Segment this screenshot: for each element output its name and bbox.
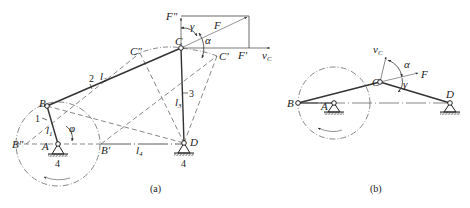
- label-f-prime: F': [237, 49, 248, 61]
- label-f: F: [213, 19, 221, 31]
- mechanism-diagram: B A C D B" B' C" C' 1 2 3 4 4 l1 l2 l3 l…: [0, 0, 470, 208]
- label-b-double-prime: B": [12, 138, 24, 150]
- label-l4: l4: [136, 144, 143, 158]
- label-link-3: 3: [189, 88, 194, 99]
- rocker-link-3: [181, 48, 184, 143]
- label-b: B: [39, 97, 46, 109]
- alpha-arc-b-icon: [388, 60, 402, 77]
- figure-b: B A C D α γ F vC (b): [287, 43, 460, 195]
- label-vc: vC: [262, 49, 272, 63]
- rocker-link-b: [380, 82, 450, 103]
- diagonal-bd: [47, 106, 184, 143]
- label-l3: l3: [175, 96, 182, 110]
- label-c-b: C: [372, 76, 380, 88]
- label-a: A: [41, 140, 49, 152]
- label-d-b: D: [445, 88, 454, 100]
- rotation-arrow-icon: [44, 177, 70, 180]
- rotation-arrow-b-icon: [318, 128, 342, 132]
- label-alpha-b: α: [404, 58, 410, 70]
- label-gamma-b: γ: [403, 78, 408, 90]
- force-f-arrow-b: [380, 73, 418, 82]
- label-b-prime: B': [101, 144, 111, 156]
- velocity-vc-arrow-b: [380, 57, 386, 82]
- joint-b-b: [296, 101, 301, 106]
- label-l2: l2: [100, 70, 107, 84]
- label-ground-d: 4: [181, 158, 186, 169]
- coupler-link-b: [298, 82, 380, 103]
- label-c-double-prime: C": [130, 45, 142, 57]
- label-phi: φ: [69, 122, 75, 134]
- label-c-prime: C': [219, 50, 229, 62]
- label-link-2: 2: [89, 73, 94, 84]
- alpha-arc-icon: [199, 33, 204, 58]
- caption-a: (a): [150, 183, 161, 195]
- label-d: D: [189, 136, 198, 148]
- label-ground-a: 4: [55, 158, 60, 169]
- figure-a: B A C D B" B' C" C' 1 2 3 4 4 l1 l2 l3 l…: [12, 10, 272, 195]
- coupler-link-2: [47, 48, 181, 106]
- label-alpha: α: [205, 34, 211, 46]
- label-vc-b: vC: [373, 43, 383, 57]
- label-a-b: A: [320, 100, 328, 112]
- extreme-link-b1c1: [101, 56, 217, 144]
- label-l1: l1: [46, 124, 53, 138]
- label-f-b: F: [420, 68, 428, 80]
- extreme-link-c1d: [184, 56, 217, 143]
- caption-b: (b): [370, 183, 382, 195]
- label-link-1: 1: [35, 113, 40, 124]
- gamma-arc-b-icon: [398, 78, 403, 92]
- label-c: C: [175, 35, 183, 47]
- label-gamma: γ: [190, 20, 195, 32]
- label-b-b: B: [287, 97, 294, 109]
- label-f-double-prime: F": [165, 10, 178, 22]
- gamma-arc-icon: [181, 28, 197, 36]
